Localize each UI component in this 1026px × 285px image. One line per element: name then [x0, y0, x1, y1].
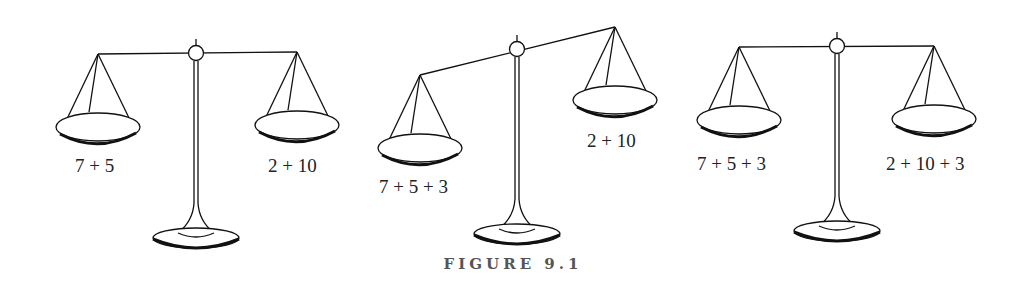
scale-3: [697, 32, 976, 241]
balance-scales-illustration: [0, 0, 1026, 285]
scale-3-left-label: 7 + 5 + 3: [697, 153, 766, 175]
scale-1-left-label: 7 + 5: [75, 155, 114, 177]
scale-2-left-label: 7 + 5 + 3: [379, 176, 448, 198]
figure-caption: FIGURE 9.1: [0, 255, 1026, 273]
scale-1-right-label: 2 + 10: [268, 155, 317, 177]
scale-3-right-label: 2 + 10 + 3: [886, 153, 964, 175]
scale-1: [56, 39, 339, 248]
scale-2-right-label: 2 + 10: [587, 130, 636, 152]
